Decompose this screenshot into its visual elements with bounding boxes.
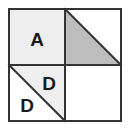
quadrant-bottom-right-fill — [65, 65, 121, 121]
figure-canvas: A D D — [0, 0, 134, 130]
quadrant-diagram-svg: A D D — [0, 0, 134, 130]
label-d-lower: D — [20, 95, 34, 116]
label-d-upper: D — [42, 73, 56, 94]
label-a-top-left: A — [30, 29, 44, 50]
